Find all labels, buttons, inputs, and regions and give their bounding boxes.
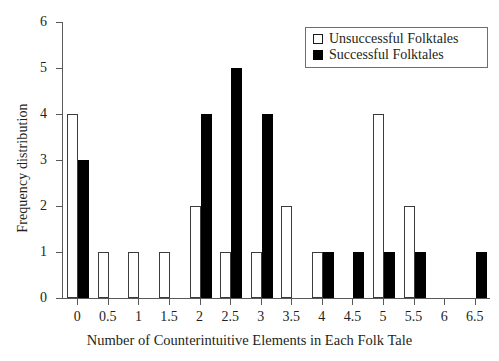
- x-tick: [383, 299, 384, 305]
- bar: [384, 252, 395, 298]
- bar: [190, 206, 201, 298]
- x-tick: [108, 299, 109, 305]
- y-tick: 4: [56, 114, 62, 115]
- x-tick: [77, 299, 78, 305]
- y-axis-title: Frequency distribution: [15, 58, 31, 278]
- open-square-icon: [313, 34, 323, 44]
- x-tick: [200, 299, 201, 305]
- bar-chart-figure: Frequency distribution 0123456 00.511.52…: [0, 0, 499, 361]
- legend-item-unsuccessful: Unsuccessful Folktales: [313, 31, 481, 47]
- y-tick-label: 1: [40, 245, 47, 259]
- x-axis-title: Number of Counterintuitive Elements in E…: [0, 332, 499, 349]
- bar: [201, 114, 212, 298]
- x-tick-label: 5: [380, 310, 387, 324]
- x-tick: [230, 299, 231, 305]
- y-tick-label: 2: [40, 199, 47, 213]
- y-tick: 1: [56, 252, 62, 253]
- x-tick: [138, 299, 139, 305]
- x-tick-label: 3.5: [283, 310, 301, 324]
- bar: [353, 252, 364, 298]
- y-tick: 3: [56, 160, 62, 161]
- y-tick-label: 6: [40, 15, 47, 29]
- x-tick-label: 3: [257, 310, 264, 324]
- x-tick: [475, 299, 476, 305]
- x-tick-label: 6: [441, 310, 448, 324]
- y-tick-label: 4: [40, 107, 47, 121]
- x-tick-label: 2.5: [221, 310, 239, 324]
- legend-label-successful: Successful Folktales: [329, 48, 444, 62]
- x-tick: [169, 299, 170, 305]
- bar: [312, 252, 323, 298]
- x-tick: [291, 299, 292, 305]
- y-tick: 0: [56, 298, 62, 299]
- x-tick-label: 4: [318, 310, 325, 324]
- x-tick-label: 6.5: [466, 310, 484, 324]
- bar: [98, 252, 109, 298]
- bar: [231, 68, 242, 298]
- bar: [78, 160, 89, 298]
- legend-item-successful: Successful Folktales: [313, 47, 481, 63]
- x-tick: [261, 299, 262, 305]
- y-tick: 6: [56, 22, 62, 23]
- x-tick-label: 1.5: [160, 310, 178, 324]
- bar: [220, 252, 231, 298]
- filled-square-icon: [313, 50, 323, 60]
- x-tick: [322, 299, 323, 305]
- x-tick-label: 0: [74, 310, 81, 324]
- y-tick-label: 0: [40, 291, 47, 305]
- x-tick: [352, 299, 353, 305]
- x-tick-label: 2: [196, 310, 203, 324]
- bar: [476, 252, 487, 298]
- bar: [373, 114, 384, 298]
- bar: [415, 252, 426, 298]
- x-tick: [444, 299, 445, 305]
- y-tick: 2: [56, 206, 62, 207]
- x-tick-label: 5.5: [405, 310, 423, 324]
- bar: [159, 252, 170, 298]
- bar: [262, 114, 273, 298]
- x-tick-label: 0.5: [99, 310, 117, 324]
- y-tick-label: 5: [40, 61, 47, 75]
- bar: [128, 252, 139, 298]
- x-tick-label: 1: [135, 310, 142, 324]
- bar: [323, 252, 334, 298]
- bar: [281, 206, 292, 298]
- y-tick-label: 3: [40, 153, 47, 167]
- x-axis-line: [62, 298, 490, 299]
- bar: [251, 252, 262, 298]
- legend-label-unsuccessful: Unsuccessful Folktales: [329, 32, 458, 46]
- chart-legend: Unsuccessful Folktales Successful Folkta…: [305, 27, 488, 68]
- x-tick-label: 4.5: [344, 310, 362, 324]
- x-tick: [414, 299, 415, 305]
- y-tick: 5: [56, 68, 62, 69]
- bar: [404, 206, 415, 298]
- bar: [67, 114, 78, 298]
